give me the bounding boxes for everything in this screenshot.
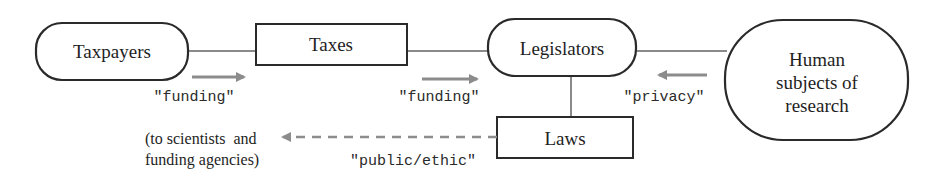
node-human-subjects-line-3: research bbox=[785, 95, 849, 116]
note-line-1: (to scientists and bbox=[145, 130, 257, 148]
node-laws: Laws bbox=[497, 117, 633, 158]
node-taxpayers-label: Taxpayers bbox=[73, 41, 151, 62]
diagram-canvas: Taxpayers Taxes Legislators Human subjec… bbox=[0, 0, 940, 180]
node-legislators-label: Legislators bbox=[520, 38, 604, 59]
node-taxes-label: Taxes bbox=[309, 34, 353, 55]
node-legislators: Legislators bbox=[488, 19, 636, 76]
node-human-subjects-line-2: subjects of bbox=[776, 72, 858, 93]
label-funding-1: "funding" bbox=[153, 89, 234, 106]
node-human-subjects-line-1: Human bbox=[789, 49, 845, 70]
label-public-ethic: "public/ethic" bbox=[350, 153, 476, 170]
node-human-subjects: Human subjects of research bbox=[725, 20, 908, 140]
label-funding-2: "funding" bbox=[398, 89, 479, 106]
node-laws-label: Laws bbox=[544, 128, 585, 149]
node-taxpayers: Taxpayers bbox=[36, 23, 188, 80]
note-destination: (to scientists and funding agencies) bbox=[145, 130, 259, 169]
note-line-2: funding agencies) bbox=[145, 151, 259, 169]
label-privacy: "privacy" bbox=[623, 89, 704, 106]
node-taxes: Taxes bbox=[256, 24, 407, 65]
